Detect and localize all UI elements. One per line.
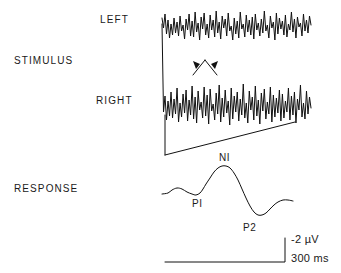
evoked-potential-figure: LEFT STIMULUS RIGHT RESPONSE PI NI P2 -2… (0, 0, 341, 273)
waveform-canvas (0, 0, 341, 273)
evoked-response-trace (162, 166, 293, 216)
stimulus-arrow-icon (193, 60, 218, 75)
stimulus-ramp-line (165, 122, 295, 155)
eeg-trace-left (162, 11, 311, 40)
scale-bar (165, 238, 285, 262)
